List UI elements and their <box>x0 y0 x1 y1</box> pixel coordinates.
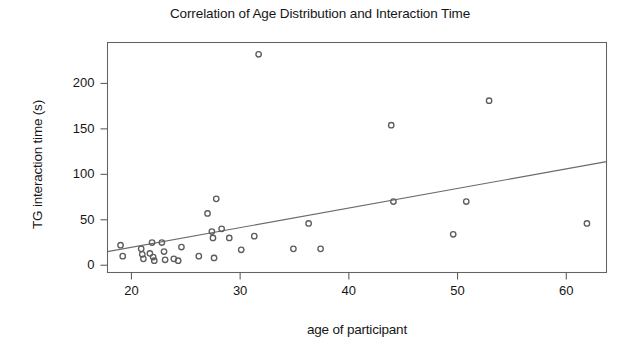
data-point <box>214 196 219 201</box>
data-point <box>464 199 469 204</box>
data-point <box>196 253 201 258</box>
data-point <box>205 211 210 216</box>
data-point <box>486 98 491 103</box>
data-point <box>318 246 323 251</box>
data-point <box>149 240 154 245</box>
regression-line <box>108 162 607 252</box>
data-point <box>291 246 296 251</box>
scatter-plot-figure: Correlation of Age Distribution and Inte… <box>0 0 640 356</box>
data-point <box>179 244 184 249</box>
data-point <box>210 235 215 240</box>
data-point <box>209 229 214 234</box>
data-point <box>211 255 216 260</box>
data-point <box>120 253 125 258</box>
data-point <box>306 221 311 226</box>
data-point-layer <box>118 52 590 264</box>
data-point <box>161 249 166 254</box>
data-point <box>252 233 257 238</box>
data-point <box>139 246 144 251</box>
plot-canvas <box>0 0 640 356</box>
data-point <box>118 243 123 248</box>
trend-line <box>108 162 607 252</box>
data-point <box>256 52 261 57</box>
data-point <box>451 232 456 237</box>
data-point <box>239 247 244 252</box>
data-point <box>389 123 394 128</box>
data-point <box>584 221 589 226</box>
data-point <box>162 257 167 262</box>
data-point <box>227 235 232 240</box>
